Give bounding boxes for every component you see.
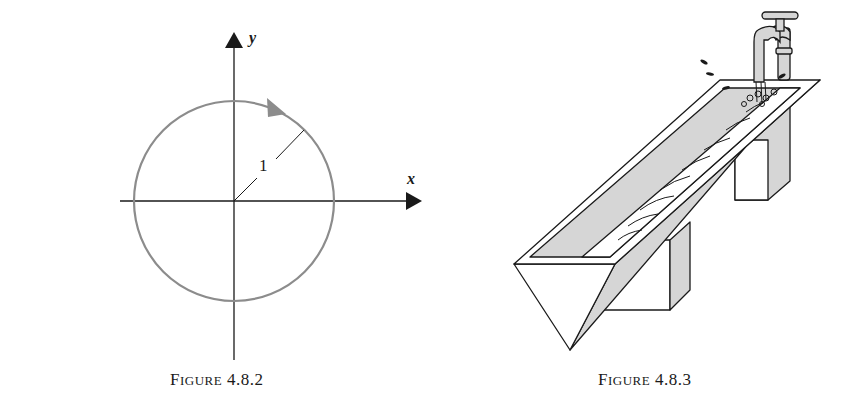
x-axis-label: x bbox=[407, 170, 415, 188]
y-axis-label: y bbox=[249, 29, 256, 47]
figure-4-8-2: 1 x y bbox=[120, 20, 440, 370]
unit-circle-diagram bbox=[120, 20, 440, 370]
figure-4-8-2-caption: Figure 4.8.2 bbox=[170, 370, 263, 390]
y-axis-arrow-icon bbox=[225, 32, 243, 48]
x-axis-arrow-icon bbox=[406, 192, 422, 210]
clockwise-arrow-icon bbox=[267, 98, 286, 117]
faucet-icon bbox=[754, 12, 798, 82]
radius-label: 1 bbox=[259, 156, 268, 176]
radius-line-lower bbox=[234, 178, 257, 201]
trough-illustration bbox=[500, 0, 840, 370]
radius-line-upper bbox=[276, 130, 304, 159]
figure-4-8-3 bbox=[500, 0, 840, 370]
figure-4-8-3-caption: Figure 4.8.3 bbox=[598, 370, 691, 390]
